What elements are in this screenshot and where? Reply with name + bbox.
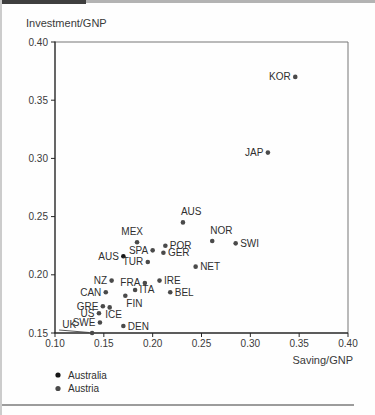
data-point-label-nz: NZ: [94, 275, 107, 286]
y-tick-label: 0.25: [29, 211, 49, 222]
x-tick-label: 0.35: [289, 338, 309, 349]
y-tick-label: 0.30: [29, 153, 49, 164]
y-tick-label: 0.35: [29, 95, 49, 106]
data-point-label-uk: UK: [62, 319, 76, 330]
data-point-aus: [181, 220, 186, 225]
data-point-ire: [157, 278, 162, 283]
scatter-figure: Investment/GNP Saving/GNP 0.100.150.200.…: [0, 0, 375, 415]
data-point-ita: [133, 288, 138, 293]
data-point-gre: [101, 304, 106, 309]
x-tick-label: 0.20: [143, 338, 163, 349]
y-tick-label: 0.40: [29, 37, 49, 48]
legend: AustraliaAustria: [55, 370, 107, 395]
data-point-nor: [210, 239, 215, 244]
data-point-label-den: DEN: [128, 321, 149, 332]
legend-label-australia: Australia: [68, 370, 107, 381]
x-tick-label: 0.10: [45, 338, 65, 349]
data-point-label-aus: AUS: [181, 206, 202, 217]
data-point-label-fra: FRA: [120, 277, 140, 288]
data-point-ger: [161, 250, 166, 255]
data-point-label-bel: BEL: [175, 287, 194, 298]
data-point-label-aus: AUS: [98, 251, 119, 262]
x-tick-label: 0.25: [192, 338, 212, 349]
x-tick-label: 0.30: [241, 338, 261, 349]
data-point-nz: [109, 278, 114, 283]
data-points: KORJAPAUSNORSWIMEXPORSPAGERAUSTURNETNZIR…: [59, 71, 297, 335]
data-point-mex: [135, 240, 140, 245]
x-tick-label: 0.15: [94, 338, 114, 349]
data-point-label-fin: FIN: [126, 298, 142, 309]
data-point-swi: [233, 241, 238, 246]
data-point-spa: [150, 248, 155, 253]
y-axis-title: Investment/GNP: [26, 17, 107, 29]
data-point-jap: [266, 150, 271, 155]
data-point-label-ger: GER: [168, 247, 190, 258]
data-point-uk: [90, 331, 95, 336]
x-tick-label: 0.40: [338, 338, 358, 349]
data-point-label-ita: ITA: [140, 284, 155, 295]
data-point-label-net: NET: [200, 261, 220, 272]
data-point-us: [97, 311, 102, 316]
data-point-label-mex: MEX: [121, 226, 143, 237]
bottom-divider-rule: [2, 404, 354, 406]
legend-dot-australia: [55, 372, 60, 377]
data-point-label-nor: NOR: [210, 225, 232, 236]
data-point-label-spa: SPA: [129, 245, 149, 256]
data-point-label-can: CAN: [80, 287, 101, 298]
data-point-label-swi: SWI: [240, 238, 259, 249]
data-point-swe: [98, 320, 103, 325]
top-edge-dark-segment: [0, 0, 86, 4]
data-point-tur: [145, 260, 150, 265]
scatter-plot-svg: Investment/GNP Saving/GNP 0.100.150.200.…: [0, 0, 375, 415]
data-point-label-tur: TUR: [123, 256, 144, 267]
data-point-den: [121, 324, 126, 329]
y-tick-label: 0.15: [29, 328, 49, 339]
y-tick-label: 0.20: [29, 269, 49, 280]
data-point-kor: [293, 75, 298, 80]
data-point-label-ice: ICE: [105, 309, 122, 320]
data-point-net: [193, 264, 198, 269]
data-point-label-kor: KOR: [269, 71, 291, 82]
data-point-label-ire: IRE: [164, 275, 181, 286]
left-edge-line: [0, 0, 2, 415]
data-point-label-jap: JAP: [245, 147, 264, 158]
legend-dot-austria: [55, 386, 60, 391]
x-axis-title: Saving/GNP: [292, 354, 353, 366]
leader-line-uk: [59, 330, 89, 333]
legend-label-austria: Austria: [68, 383, 100, 394]
data-point-bel: [168, 290, 173, 295]
data-point-can: [103, 290, 108, 295]
